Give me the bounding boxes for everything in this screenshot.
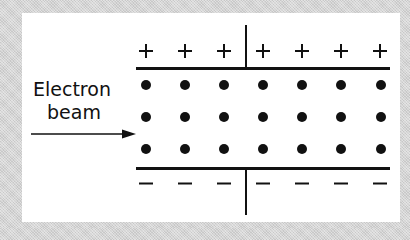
electron-dot <box>141 80 151 90</box>
electron-dot <box>376 144 386 154</box>
electron-dot <box>180 80 190 90</box>
electron-dot <box>219 144 229 154</box>
electron-dot <box>258 144 268 154</box>
electron-dot <box>258 80 268 90</box>
electron-dot <box>180 144 190 154</box>
electron-dot <box>219 112 229 122</box>
electron-dot <box>336 112 346 122</box>
electron-dot <box>219 80 229 90</box>
plus-sign <box>139 44 153 58</box>
positive-charges <box>139 44 387 58</box>
plus-sign <box>295 44 309 58</box>
electron-dot <box>336 144 346 154</box>
plus-sign <box>217 44 231 58</box>
electrons <box>141 80 386 154</box>
electron-dot <box>297 80 307 90</box>
plus-sign <box>256 44 270 58</box>
plus-sign <box>373 44 387 58</box>
electron-dot <box>141 112 151 122</box>
label-electron: Electron <box>33 78 111 100</box>
electron-dot <box>141 144 151 154</box>
electron-dot <box>376 80 386 90</box>
electron-dot <box>297 144 307 154</box>
electron-dot <box>297 112 307 122</box>
electron-dot <box>258 112 268 122</box>
electron-dot <box>336 80 346 90</box>
plus-sign <box>178 44 192 58</box>
arrow-right-icon <box>122 130 136 139</box>
label-beam: beam <box>47 101 101 123</box>
electron-dot <box>180 112 190 122</box>
plus-sign <box>334 44 348 58</box>
electron-dot <box>376 112 386 122</box>
electron-beam-diagram: Electron beam <box>0 0 410 228</box>
